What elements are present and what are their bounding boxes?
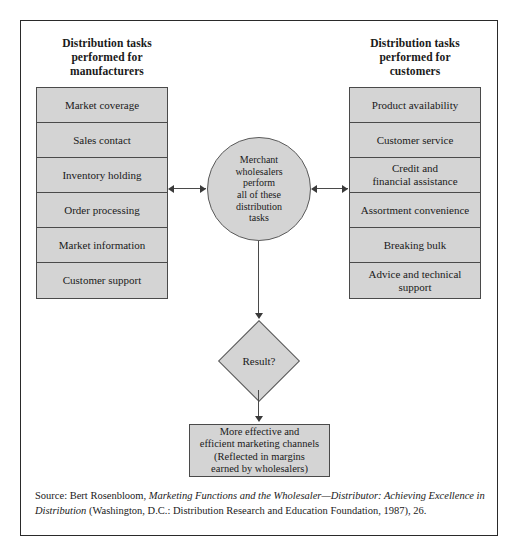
source-prefix: Source: Bert Rosenbloom, xyxy=(35,490,149,501)
task-box: Order processing xyxy=(37,193,167,228)
center-circle-label: Merchant wholesalers perform all of thes… xyxy=(227,154,290,224)
outcome-box-label: More effective and efficient marketing c… xyxy=(200,426,319,476)
task-box: Product availability xyxy=(350,88,480,123)
connector-circle-to-result xyxy=(258,241,259,315)
connector-result-to-outcome xyxy=(258,390,259,418)
right-task-column: Product availability Customer service Cr… xyxy=(349,87,481,299)
arrow-left-icon xyxy=(311,185,317,193)
task-box: Assortment convenience xyxy=(350,193,480,228)
arrow-left-icon xyxy=(168,185,174,193)
right-column-heading: Distribution tasks performed for custome… xyxy=(339,36,491,78)
source-suffix: (Washington, D.C.: Distribution Research… xyxy=(86,505,426,516)
arrow-down-icon xyxy=(255,416,263,422)
arrow-right-icon xyxy=(342,185,348,193)
task-box: Customer service xyxy=(350,123,480,158)
task-box: Advice and technical support xyxy=(350,263,480,298)
source-citation: Source: Bert Rosenbloom, Marketing Funct… xyxy=(35,489,487,518)
task-box: Market information xyxy=(37,228,167,263)
left-column-heading: Distribution tasks performed for manufac… xyxy=(31,36,183,78)
task-box: Inventory holding xyxy=(37,158,167,193)
task-box: Breaking bulk xyxy=(350,228,480,263)
center-circle-node: Merchant wholesalers perform all of thes… xyxy=(207,137,311,241)
figure-frame: Distribution tasks performed for manufac… xyxy=(20,20,498,536)
task-box: Market coverage xyxy=(37,88,167,123)
arrow-down-icon xyxy=(255,313,263,319)
result-diamond-label: Result? xyxy=(219,321,299,401)
task-box: Credit and financial assistance xyxy=(350,158,480,193)
task-box: Customer support xyxy=(37,263,167,298)
left-task-column: Market coverage Sales contact Inventory … xyxy=(36,87,168,299)
arrow-right-icon xyxy=(200,185,206,193)
outcome-box-node: More effective and efficient marketing c… xyxy=(189,424,330,477)
result-diamond-node: Result? xyxy=(219,321,299,401)
task-box: Sales contact xyxy=(37,123,167,158)
